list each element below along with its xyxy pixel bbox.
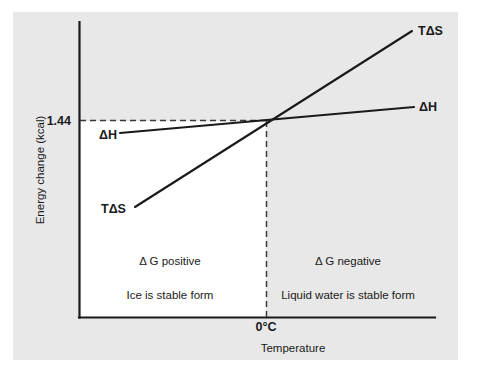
chart-figure: TΔS ΔH ΔH TΔS 1.44 0°C Temperature Energ… xyxy=(0,0,480,373)
region-label-liquid-water-stable: Liquid water is stable form xyxy=(281,289,415,301)
chart-canvas: TΔS ΔH ΔH TΔS 1.44 0°C Temperature Energ… xyxy=(0,0,480,373)
y-axis-tick-1-44: 1.44 xyxy=(47,114,71,128)
series-label-tds-right: TΔS xyxy=(418,24,443,38)
region-label-delta-g-positive: Δ G positive xyxy=(139,255,200,267)
series-label-tds-left: TΔS xyxy=(101,202,126,216)
x-axis-title: Temperature xyxy=(261,342,326,354)
region-label-ice-stable: Ice is stable form xyxy=(127,289,214,301)
region-label-delta-g-negative: Δ G negative xyxy=(315,255,381,267)
y-axis-title: Energy change (kcal) xyxy=(34,115,46,224)
series-label-dh-right: ΔH xyxy=(419,100,437,114)
series-label-dh-left: ΔH xyxy=(99,128,117,142)
x-axis-tick-0c: 0°C xyxy=(256,320,277,334)
